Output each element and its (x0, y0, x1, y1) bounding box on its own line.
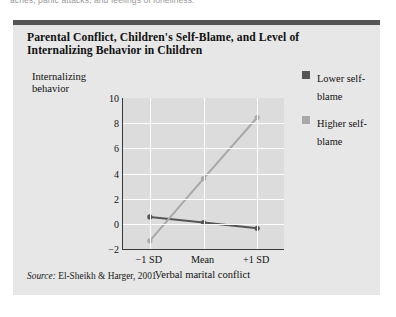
legend-item-label: Lower self-blame (317, 73, 365, 102)
x-axis-tick-label: +1 SD (226, 254, 286, 265)
gridline-vertical (204, 98, 205, 249)
y-axis-tick-label: 8 (95, 118, 119, 129)
legend-square-icon (302, 71, 310, 79)
y-axis-tick-label: −2 (95, 244, 119, 255)
figure-screenshot: aches, panic attacks, and feelings of lo… (0, 0, 396, 317)
y-axis-tick-labels: 1086420−2 (93, 98, 119, 249)
plot-frame (122, 98, 284, 250)
legend-item: Lower self-blame (302, 68, 380, 104)
source-citation: El-Sheikh & Harger, 2001. (56, 271, 159, 281)
figure-panel: Parental Conflict, Children's Self-Blame… (13, 20, 380, 295)
figure-title: Parental Conflict, Children's Self-Blame… (27, 31, 357, 58)
x-axis-tick-labels: −1 SDMean+1 SD (122, 254, 283, 268)
gridline-vertical (257, 98, 258, 249)
y-axis-tick-label: 2 (95, 193, 119, 204)
figure-source: Source: El-Sheikh & Harger, 2001. (27, 271, 159, 281)
legend-item-label: Higher self-blame (317, 118, 367, 147)
y-axis-tick-label: 6 (95, 143, 119, 154)
y-axis-tick-label: 10 (95, 93, 119, 104)
y-axis-tick-label: 0 (95, 218, 119, 229)
x-axis-tick-label: −1 SD (119, 254, 179, 265)
legend-item: Higher self-blame (302, 113, 380, 149)
page-running-text: aches, panic attacks, and feelings of lo… (10, 0, 340, 5)
y-axis-tick-label: 4 (95, 168, 119, 179)
legend-square-icon (302, 116, 310, 124)
y-axis-title: Internalizing behavior (32, 71, 108, 95)
x-axis-tick-label: Mean (173, 254, 233, 265)
panel-top-rule (13, 20, 380, 25)
gridline-vertical (150, 98, 151, 249)
source-word: Source: (27, 271, 56, 281)
chart-legend: Lower self-blameHigher self-blame (302, 68, 380, 158)
